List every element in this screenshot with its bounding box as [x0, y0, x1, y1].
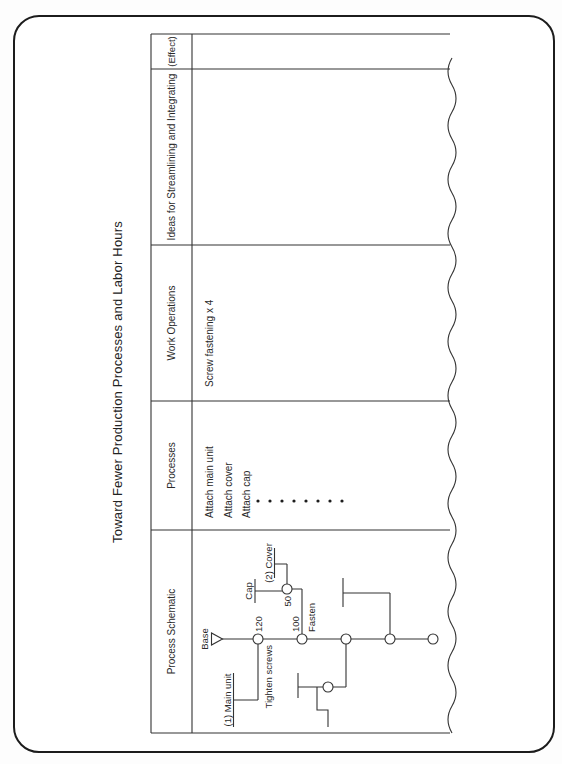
sub-branch-circle [323, 682, 333, 692]
torn-edge-wave [448, 58, 456, 733]
scanned-page: Toward Fewer Production Processes and La… [0, 0, 562, 764]
operation-circle-1 [253, 634, 263, 644]
label-time-100: 100 [290, 616, 301, 632]
branch-circle-cap-cover [282, 584, 292, 594]
label-tighten-screws: Tighten screws [263, 645, 274, 709]
base-storage-triangle-icon [212, 633, 223, 645]
label-time-120: 120 [253, 616, 264, 632]
process-chart-svg: Base (1) Main unit Tighten screws 120 10… [0, 0, 562, 764]
ellipsis-dots [256, 499, 343, 502]
label-time-50: 50 [282, 596, 293, 607]
operation-circle-3 [341, 634, 351, 644]
rotated-content: Toward Fewer Production Processes and La… [0, 0, 562, 764]
label-cover: (2) Cover [263, 543, 274, 583]
operation-circle-5 [428, 634, 438, 644]
label-base: Base [199, 628, 210, 650]
label-main-unit: (1) Main unit [222, 673, 233, 726]
table-grid-lines [151, 34, 456, 733]
label-fasten: Fasten [306, 603, 317, 632]
operation-circle-4 [385, 634, 395, 644]
label-cap: Cap [243, 582, 254, 599]
operation-circle-2 [297, 634, 307, 644]
